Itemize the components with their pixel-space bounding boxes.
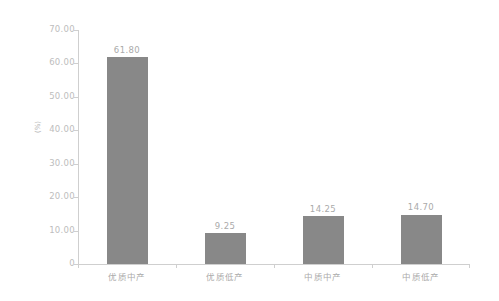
bar-chart: (%) 70.00 60.00 50.00 40.00 30.00 20.00 … — [0, 0, 499, 301]
y-tick-20: 20.00 — [0, 197, 86, 198]
y-tick-label: 70.00 — [49, 24, 75, 34]
y-tick-70: 70.00 — [0, 30, 86, 31]
bar[interactable] — [401, 215, 442, 264]
x-category-label: 中质中产 — [274, 270, 372, 282]
x-category-label: 优质低产 — [176, 270, 274, 282]
bar-value-label: 14.70 — [386, 202, 456, 212]
y-axis-title: (%) — [34, 107, 42, 147]
plot-area: 61.80 9.25 14.25 14.70 — [78, 30, 470, 264]
x-tick-mark — [78, 264, 79, 268]
y-tick-label: 20.00 — [49, 191, 75, 201]
bar-value-label: 9.25 — [190, 221, 260, 231]
x-category-label: 优质中产 — [78, 270, 176, 282]
bar-group: 9.25 — [176, 30, 274, 264]
y-tick-40: 40.00 — [0, 130, 86, 131]
x-tick-mark — [469, 264, 470, 268]
y-tick-0: 0 — [0, 264, 86, 265]
y-tick-30: 30.00 — [0, 164, 86, 165]
y-tick-10: 10.00 — [0, 231, 86, 232]
bar-group: 14.25 — [274, 30, 372, 264]
x-tick-mark — [372, 264, 373, 268]
bar-value-label: 14.25 — [288, 204, 358, 214]
x-tick-mark — [176, 264, 177, 268]
y-tick-50: 50.00 — [0, 97, 86, 98]
y-tick-label: 50.00 — [49, 91, 75, 101]
bar-value-label: 61.80 — [92, 45, 162, 55]
bar-group: 61.80 — [78, 30, 176, 264]
y-tick-label: 40.00 — [49, 124, 75, 134]
bar[interactable] — [303, 216, 344, 264]
x-category-label: 中质低产 — [372, 270, 470, 282]
bar[interactable] — [205, 233, 246, 264]
y-tick-label: 30.00 — [49, 158, 75, 168]
x-tick-mark — [274, 264, 275, 268]
bar-group: 14.70 — [372, 30, 470, 264]
y-tick-60: 60.00 — [0, 63, 86, 64]
y-tick-label: 10.00 — [49, 225, 75, 235]
y-tick-label: 0 — [69, 258, 75, 268]
bar[interactable] — [107, 57, 148, 264]
y-tick-label: 60.00 — [49, 57, 75, 67]
